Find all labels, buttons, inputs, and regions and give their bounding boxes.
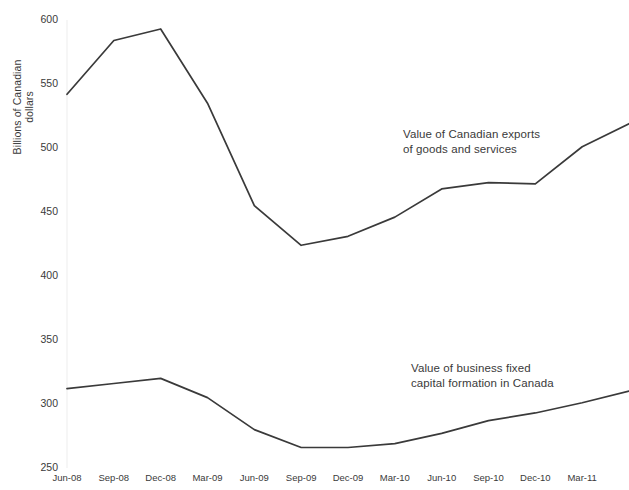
line-chart: Billions of Canadian dollars 60055050045… xyxy=(0,0,629,490)
plot-area xyxy=(0,0,629,490)
annotation-investment: Value of business fixed capital formatio… xyxy=(411,361,554,391)
series-line-exports xyxy=(67,29,629,245)
annotation-exports: Value of Canadian exports of goods and s… xyxy=(403,127,540,157)
